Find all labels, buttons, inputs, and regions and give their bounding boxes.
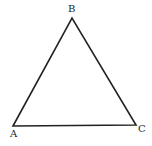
triangle-shape — [0, 0, 152, 146]
vertex-label-b: B — [68, 4, 75, 14]
vertex-label-a: A — [10, 129, 17, 139]
triangle-diagram: B A C — [0, 0, 152, 146]
vertex-label-c: C — [138, 124, 146, 134]
